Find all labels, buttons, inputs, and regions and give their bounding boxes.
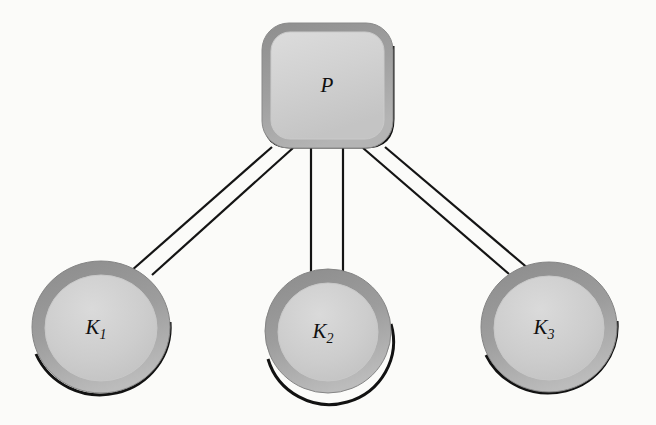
link-P-K3-edge-b	[385, 147, 530, 270]
node-K1[interactable]: K1	[32, 261, 170, 395]
node-K3-label-sub: 3	[547, 327, 555, 342]
node-P-label: P	[320, 73, 334, 97]
link-P-K1-edge-b	[152, 148, 293, 275]
node-K3[interactable]: K3	[481, 262, 617, 393]
node-P-label-main: P	[320, 73, 334, 97]
node-K2-label-main: K	[311, 319, 327, 343]
link-P-K3[interactable]	[363, 147, 530, 274]
link-P-K1-edge-a	[131, 147, 272, 271]
diagram-svg: P K1 K2 K3	[0, 0, 656, 425]
node-P[interactable]: P	[262, 23, 393, 148]
node-K1-label-main: K	[84, 315, 100, 339]
node-K2[interactable]: K2	[265, 269, 394, 404]
link-group	[131, 147, 530, 275]
link-P-K2[interactable]	[311, 148, 343, 272]
link-P-K1[interactable]	[131, 147, 293, 275]
node-K1-label-sub: 1	[100, 327, 107, 342]
diagram-canvas: P K1 K2 K3	[0, 0, 656, 425]
node-K2-label-sub: 2	[327, 331, 334, 346]
link-P-K3-edge-a	[363, 148, 509, 274]
node-K3-label-main: K	[532, 315, 548, 339]
